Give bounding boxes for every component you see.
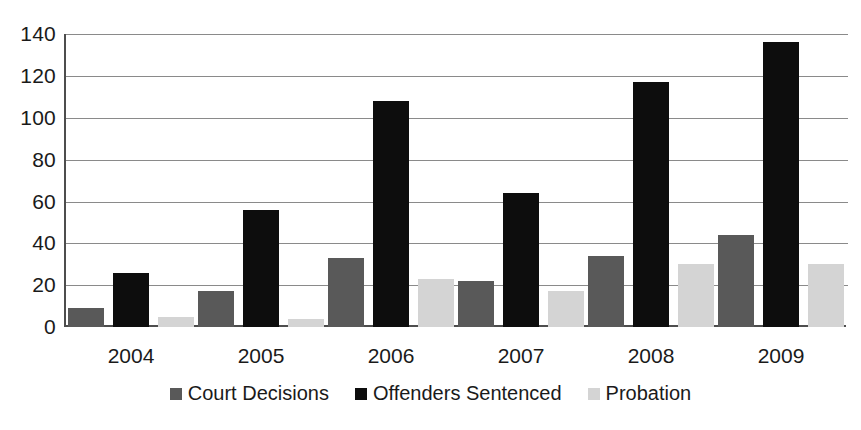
y-tick-label: 140 — [0, 22, 56, 46]
x-tick-label-2005: 2005 — [196, 334, 326, 370]
bars-layer — [66, 34, 846, 327]
bar-offenders-sentenced-2009[interactable] — [763, 42, 799, 327]
bar-court-decisions-2009[interactable] — [718, 235, 754, 327]
y-tick-label: 40 — [0, 231, 56, 255]
x-tick-label-2008: 2008 — [586, 334, 716, 370]
chart-legend: Court Decisions Offenders Sentenced Prob… — [0, 383, 861, 403]
legend-label: Probation — [606, 383, 692, 403]
y-tick-label: 20 — [0, 273, 56, 297]
bar-chart: 140 120 100 80 60 40 20 0 — [0, 0, 861, 430]
y-tick-label: 80 — [0, 148, 56, 172]
x-tick-label-2004: 2004 — [66, 334, 196, 370]
bar-court-decisions-2007[interactable] — [458, 281, 494, 327]
bar-group-2004 — [66, 34, 196, 327]
x-tick-label-2009: 2009 — [716, 334, 846, 370]
legend-swatch-icon — [588, 388, 600, 400]
legend-item-court-decisions[interactable]: Court Decisions — [170, 383, 329, 403]
legend-swatch-icon — [355, 388, 367, 400]
bar-group-2006 — [326, 34, 456, 327]
bar-offenders-sentenced-2005[interactable] — [243, 210, 279, 327]
legend-item-offenders-sentenced[interactable]: Offenders Sentenced — [355, 383, 562, 403]
bar-group-2008 — [586, 34, 716, 327]
legend-label: Court Decisions — [188, 383, 329, 403]
bar-offenders-sentenced-2006[interactable] — [373, 101, 409, 327]
y-tick-label: 60 — [0, 190, 56, 214]
x-axis-tick-labels: 2004 2005 2006 2007 2008 2009 — [66, 334, 846, 370]
bar-group-2009 — [716, 34, 846, 327]
y-tick-label: 0 — [0, 315, 56, 339]
bar-offenders-sentenced-2007[interactable] — [503, 193, 539, 327]
bar-probation-2004[interactable] — [158, 317, 194, 327]
x-tick-label-2006: 2006 — [326, 334, 456, 370]
y-tick-label: 120 — [0, 64, 56, 88]
bar-group-2005 — [196, 34, 326, 327]
bar-offenders-sentenced-2004[interactable] — [113, 273, 149, 327]
legend-label: Offenders Sentenced — [373, 383, 562, 403]
legend-item-probation[interactable]: Probation — [588, 383, 692, 403]
bar-court-decisions-2005[interactable] — [198, 291, 234, 327]
y-tick-label: 100 — [0, 106, 56, 130]
bar-probation-2005[interactable] — [288, 319, 324, 327]
y-axis-tick-labels: 140 120 100 80 60 40 20 0 — [0, 0, 60, 430]
bar-probation-2007[interactable] — [548, 291, 584, 327]
bar-court-decisions-2004[interactable] — [68, 308, 104, 327]
bar-court-decisions-2008[interactable] — [588, 256, 624, 327]
bar-probation-2009[interactable] — [808, 264, 844, 327]
legend-swatch-icon — [170, 388, 182, 400]
bar-group-2007 — [456, 34, 586, 327]
bar-probation-2006[interactable] — [418, 279, 454, 327]
bar-offenders-sentenced-2008[interactable] — [633, 82, 669, 327]
bar-probation-2008[interactable] — [678, 264, 714, 327]
x-tick-label-2007: 2007 — [456, 334, 586, 370]
bar-court-decisions-2006[interactable] — [328, 258, 364, 327]
